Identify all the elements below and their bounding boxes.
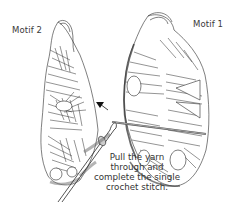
caption-line: Pull the yarn [82,152,192,162]
caption-line: crochet stitch. [82,182,192,192]
motif-2-label: Motif 2 [12,25,42,35]
motif-1-label: Motif 1 [193,19,223,29]
caption-line: through and [82,162,192,172]
instruction-caption: Pull the yarn through and complete the s… [82,152,192,192]
direction-arrow [96,102,108,110]
caption-line: complete the single [82,172,192,182]
